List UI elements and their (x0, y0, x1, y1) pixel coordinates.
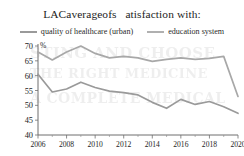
y-axis: 40455055606570 (25, 42, 38, 140)
x-tick-label: 2010 (88, 140, 103, 149)
x-tick-label: 2020 (230, 140, 244, 149)
chart-title: LACaverageofs atisfaction with: (0, 8, 244, 20)
plot-svg: 40455055606570 2006200820102012201420162… (0, 40, 244, 156)
legend-item-healthcare[interactable]: quality of healthcare (urban) (20, 27, 133, 36)
y-tick-label: 40 (25, 131, 33, 140)
x-axis: 20062008201020122014201620182020 (30, 135, 244, 149)
x-tick-label: 2016 (173, 140, 188, 149)
y-tick-label: 70 (25, 42, 33, 51)
legend-swatch-healthcare (20, 31, 37, 33)
plot-area: 40455055606570 2006200820102012201420162… (0, 40, 244, 156)
series-lines (38, 46, 238, 113)
legend-label-healthcare: quality of healthcare (urban) (41, 27, 133, 36)
legend-item-education[interactable]: education system (147, 27, 224, 36)
legend-label-education: education system (168, 27, 224, 36)
chart-legend: quality of healthcare (urban) education … (0, 27, 244, 36)
x-tick-label: 2014 (145, 140, 160, 149)
y-axis-unit-label: % (40, 41, 47, 50)
y-tick-label: 65 (25, 57, 33, 66)
y-tick-label: 55 (25, 87, 33, 96)
x-tick-label: 2006 (30, 140, 45, 149)
x-tick-label: 2012 (116, 140, 131, 149)
series-line-0 (38, 74, 238, 113)
y-tick-label: 50 (25, 101, 33, 110)
legend-swatch-education (147, 31, 164, 33)
x-tick-label: 2018 (202, 140, 217, 149)
y-tick-label: 60 (25, 72, 33, 81)
x-tick-label: 2008 (59, 140, 74, 149)
line-chart: LACaverageofs atisfaction with: quality … (0, 0, 244, 156)
y-tick-label: 45 (25, 116, 33, 125)
